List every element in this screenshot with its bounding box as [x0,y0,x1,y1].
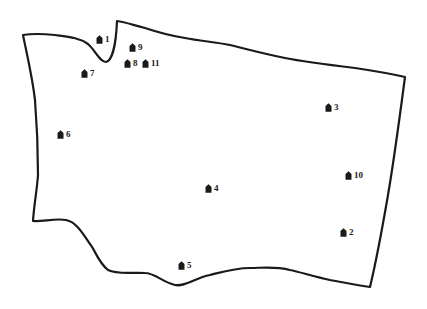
house-icon [129,43,136,52]
house-icon [81,69,88,78]
marker-11[interactable]: 11 [142,59,160,68]
marker-label: 5 [187,261,192,270]
house-icon [57,130,64,139]
marker-5[interactable]: 5 [178,261,192,270]
region-outline [23,21,405,287]
marker-label: 1 [105,35,110,44]
marker-7[interactable]: 7 [81,69,95,78]
marker-label: 9 [138,43,143,52]
marker-label: 4 [214,184,219,193]
house-icon [325,103,332,112]
house-icon [142,59,149,68]
house-icon [340,228,347,237]
house-icon [205,184,212,193]
marker-10[interactable]: 10 [345,171,363,180]
marker-3[interactable]: 3 [325,103,339,112]
marker-label: 3 [334,103,339,112]
house-icon [345,171,352,180]
map-canvas [0,0,427,309]
marker-2[interactable]: 2 [340,228,354,237]
marker-4[interactable]: 4 [205,184,219,193]
marker-label: 6 [66,130,71,139]
marker-6[interactable]: 6 [57,130,71,139]
marker-label: 2 [349,228,354,237]
marker-label: 10 [354,171,363,180]
marker-9[interactable]: 9 [129,43,143,52]
marker-label: 8 [133,59,138,68]
house-icon [96,35,103,44]
house-icon [124,59,131,68]
marker-8[interactable]: 8 [124,59,138,68]
house-icon [178,261,185,270]
marker-label: 11 [151,59,160,68]
marker-label: 7 [90,69,95,78]
marker-1[interactable]: 1 [96,35,110,44]
